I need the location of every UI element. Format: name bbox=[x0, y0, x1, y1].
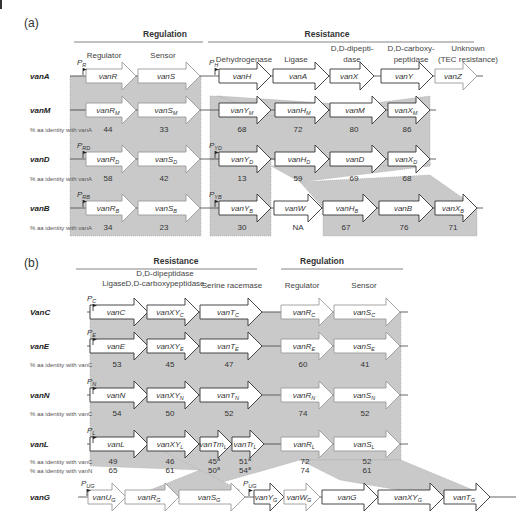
identity-value: 52 bbox=[363, 457, 372, 466]
identity-value: 72 bbox=[301, 457, 310, 466]
operon-label-vanA: vanA bbox=[30, 72, 50, 81]
identity-value: 52 bbox=[361, 409, 370, 418]
function-label: Sensor bbox=[150, 51, 176, 60]
identity-value: 69 bbox=[350, 174, 359, 183]
identity-value: 68 bbox=[403, 174, 412, 183]
identity-value: NA bbox=[292, 223, 304, 232]
gene-label: vanTrL bbox=[234, 440, 257, 450]
vancomycin-resistance-operon-diagram: (a)RegulationResistanceRegulatorSensorDe… bbox=[0, 0, 526, 513]
identity-value: 60 bbox=[299, 360, 308, 369]
identity-row-label: % aa identity with vanA bbox=[30, 225, 92, 231]
promoter-label: PUG bbox=[243, 479, 257, 489]
function-label: Dehydrogenase bbox=[216, 55, 273, 64]
gene-label: vanM bbox=[345, 106, 365, 115]
operon-label-vanB: vanB bbox=[30, 204, 50, 213]
function-label: Serine racemase bbox=[202, 281, 263, 290]
gene-label: vanG bbox=[337, 493, 356, 502]
function-label: peptidase bbox=[394, 55, 429, 64]
gene-label: vanC bbox=[107, 308, 126, 317]
identity-value: 44 bbox=[104, 125, 113, 134]
gene-label: vanL bbox=[107, 440, 124, 449]
identity-value: 41 bbox=[361, 360, 370, 369]
identity-value: 53 bbox=[113, 360, 122, 369]
gene-label: vanY bbox=[395, 72, 414, 81]
gene-label: vanW bbox=[285, 204, 307, 213]
identity-value: 76 bbox=[400, 223, 409, 232]
identity-value: 13 bbox=[238, 174, 247, 183]
identity-value: 54 bbox=[113, 409, 122, 418]
gene-label: vanS bbox=[157, 72, 176, 81]
identity-value: 61 bbox=[166, 466, 175, 475]
page-margin-mark bbox=[0, 0, 2, 9]
identity-value: 67 bbox=[342, 223, 351, 232]
gene-label: vanE bbox=[107, 342, 126, 351]
promoter-vanA-0: PR bbox=[77, 58, 87, 75]
function-label: Regulator bbox=[285, 281, 320, 290]
gene-label: vanXYN bbox=[156, 391, 184, 401]
identity-value: 30 bbox=[238, 223, 247, 232]
function-label: D,D-dipepti- bbox=[331, 44, 374, 53]
function-label: Ligase bbox=[102, 279, 126, 288]
gene-vanA-3: vanA bbox=[273, 62, 329, 90]
gene-vanA-6: vanZ bbox=[435, 62, 477, 90]
function-label: Regulator bbox=[87, 51, 122, 60]
identity-row-label: % aa identity with vanC bbox=[30, 362, 93, 368]
promoter-label: PR bbox=[77, 58, 86, 68]
function-label: D,D-carboxy- bbox=[387, 44, 434, 53]
section-header-regulation: Regulation bbox=[300, 256, 344, 266]
operon-label-VanC: VanC bbox=[30, 308, 50, 317]
identity-row-label-vann: % aa identity with vanN bbox=[30, 468, 92, 474]
identity-value: 34 bbox=[104, 223, 113, 232]
section-header-regulation: Regulation bbox=[143, 29, 187, 39]
panel-a-label: (a) bbox=[24, 16, 39, 30]
identity-value: 45 bbox=[166, 360, 175, 369]
operon-label-vanN: vanN bbox=[30, 391, 50, 400]
gene-label: vanB bbox=[394, 204, 413, 213]
operon-label-vanD: vanD bbox=[30, 155, 50, 164]
identity-value: 33 bbox=[160, 125, 169, 134]
operon-label-vanG: vanG bbox=[30, 493, 50, 502]
function-label: dase bbox=[343, 55, 361, 64]
function-label: D,D-dipeptidase bbox=[136, 269, 194, 278]
identity-value: 71 bbox=[449, 223, 458, 232]
identity-value: 80 bbox=[350, 125, 359, 134]
section-header-resistance: Resistance bbox=[305, 29, 350, 39]
function-label: (TEC resistance) bbox=[438, 55, 498, 64]
gene-label: vanN bbox=[107, 391, 126, 400]
identity-value: 42 bbox=[160, 174, 169, 183]
identity-value: 74 bbox=[301, 466, 310, 475]
identity-row-label: % aa identity with vanA bbox=[30, 176, 92, 182]
gene-label: vanXYL bbox=[157, 440, 184, 450]
identity-value: 68 bbox=[238, 125, 247, 134]
identity-row-label-vanc: % aa identity with vanC bbox=[30, 459, 93, 465]
promoter-flag-icon bbox=[249, 489, 253, 492]
gene-vanA-2: vanH bbox=[219, 62, 271, 90]
function-label: D,D-carboxypeptidase bbox=[125, 279, 205, 288]
operon-label-vanL: vanL bbox=[30, 440, 49, 449]
identity-value: 65 bbox=[109, 466, 118, 475]
homology-shading bbox=[90, 312, 401, 444]
gene-vanG-5: vanG bbox=[322, 483, 378, 511]
identity-value: 86 bbox=[403, 125, 412, 134]
gene-label: vanX bbox=[340, 72, 359, 81]
identity-value: 59 bbox=[294, 174, 303, 183]
gene-vanA-5: vanY bbox=[381, 62, 433, 90]
identity-value: 49 bbox=[109, 457, 118, 466]
identity-value: 47 bbox=[225, 360, 234, 369]
identity-value: 52 bbox=[225, 409, 234, 418]
gene-vanG-3: vanYG bbox=[254, 483, 284, 511]
identity-row-label: % aa identity with vanC bbox=[30, 411, 93, 417]
function-label: Sensor bbox=[351, 281, 377, 290]
gene-label: vanR bbox=[99, 72, 118, 81]
promoter-flag-icon bbox=[215, 68, 219, 71]
panel-b-label: (b) bbox=[24, 256, 39, 270]
gene-label: vanSL bbox=[353, 440, 374, 450]
gene-label: vanA bbox=[289, 72, 307, 81]
identity-value: 58 bbox=[104, 174, 113, 183]
gene-label: vanTmL bbox=[199, 440, 227, 450]
gene-label: vanXYC bbox=[156, 308, 184, 318]
gene-label: vanD bbox=[346, 155, 365, 164]
gene-label: vanZ bbox=[444, 72, 463, 81]
gene-label: vanH bbox=[233, 72, 252, 81]
function-label: Unknown bbox=[451, 44, 484, 53]
